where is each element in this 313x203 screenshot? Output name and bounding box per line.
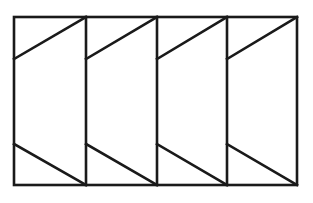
bottom-diagonal-3 (157, 144, 227, 185)
top-diagonal-4 (227, 17, 297, 59)
bottom-diagonal-4 (227, 144, 297, 185)
vertical-dividers (86, 17, 227, 185)
diagonal-lines (14, 17, 297, 185)
top-diagonal-3 (157, 17, 227, 59)
top-diagonal-1 (14, 17, 86, 59)
bottom-diagonal-1 (14, 144, 86, 185)
top-diagonal-2 (86, 17, 157, 59)
bottom-diagonal-2 (86, 144, 157, 185)
panel-diagram (0, 0, 313, 203)
